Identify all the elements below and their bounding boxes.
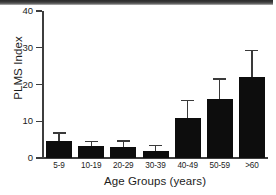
y-tick-label: 40 xyxy=(5,6,33,16)
error-bar-cap xyxy=(85,141,98,142)
error-bar-cap xyxy=(117,140,130,141)
error-bar-cap xyxy=(181,100,194,101)
y-tick-mark xyxy=(36,157,42,158)
error-bar-stem xyxy=(58,132,59,141)
bar xyxy=(78,146,104,158)
bar xyxy=(207,99,233,158)
error-bar-stem xyxy=(187,100,188,118)
y-axis-title: PLMS Index xyxy=(12,22,24,114)
y-tick-mark xyxy=(36,121,42,122)
y-tick-mark xyxy=(36,84,42,85)
y-axis-spine xyxy=(42,11,44,158)
bar xyxy=(239,77,265,158)
bar xyxy=(175,118,201,158)
y-tick-label: 30 xyxy=(5,43,33,53)
error-bar-stem xyxy=(251,50,252,78)
y-tick-label: 20 xyxy=(5,80,33,90)
error-bar-cap xyxy=(245,50,258,51)
error-bar-cap xyxy=(149,145,162,146)
y-tick-mark xyxy=(36,47,42,48)
error-bar-cap xyxy=(213,78,226,79)
error-bar-stem xyxy=(219,78,220,99)
bar xyxy=(110,147,136,158)
y-tick-label: 10 xyxy=(5,116,33,126)
y-tick-mark xyxy=(36,10,42,11)
chart-figure: PLMS Index Age Groups (years) 010203040 … xyxy=(0,0,276,195)
bar xyxy=(143,151,169,158)
error-bar-cap xyxy=(53,132,66,133)
x-tick-label: >60 xyxy=(233,161,271,170)
x-axis-title: Age Groups (years) xyxy=(42,175,268,187)
bar xyxy=(46,141,72,158)
y-tick-label: 0 xyxy=(5,153,33,163)
scan-artifact-right-edge xyxy=(273,0,276,195)
